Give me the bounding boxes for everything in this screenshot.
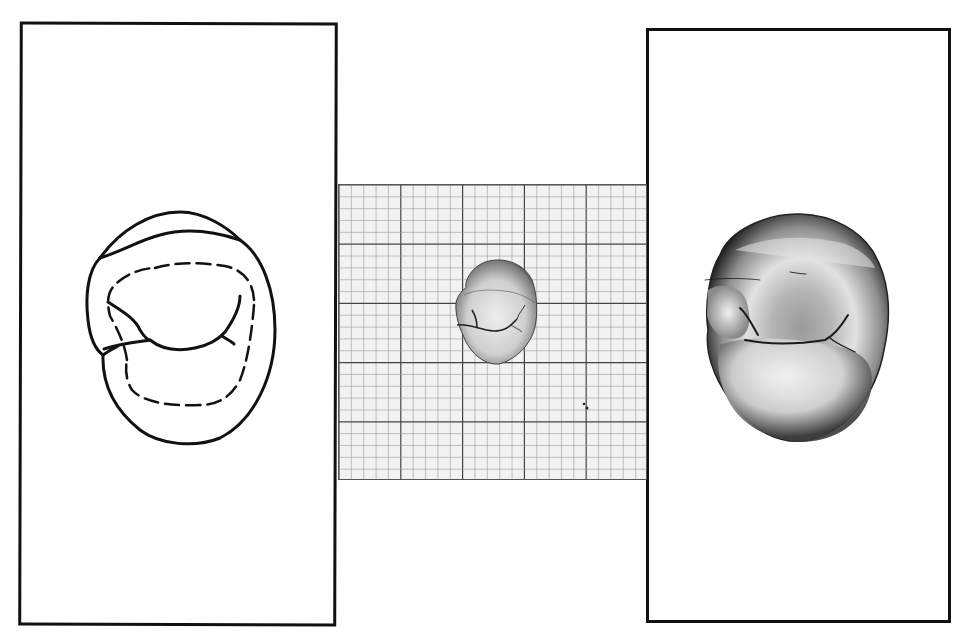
small-tooth-photo: [339, 185, 647, 480]
graph-paper-panel: [338, 184, 647, 480]
left-panel-frame: [18, 22, 338, 627]
right-panel-frame: [646, 28, 951, 623]
